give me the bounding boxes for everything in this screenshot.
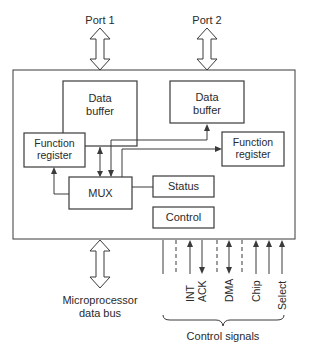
status-block: Status [153, 176, 214, 197]
svg-text:Data: Data [88, 92, 112, 104]
chip-label: Chip [250, 280, 262, 302]
svg-text:Control: Control [166, 211, 201, 223]
port2-label: Port 2 [192, 14, 221, 26]
port2-bidirectional-arrow-icon [197, 28, 217, 70]
function-register-left: Function register [24, 133, 85, 167]
chip-up-arrow-icon [253, 240, 259, 247]
svg-text:register: register [37, 149, 73, 161]
function-register-right: Function register [222, 132, 284, 166]
dma-down-arrow-icon [226, 267, 232, 274]
peripheral-interface-diagram: Port 1 Port 2 Data buffer Data buffer Fu… [0, 0, 311, 344]
svg-text:Function: Function [34, 137, 74, 149]
data-bus-label-line2: data bus [79, 307, 122, 319]
data-buffer-right: Data buffer [170, 81, 244, 123]
svg-text:Function: Function [233, 136, 273, 148]
ack-down-arrow-icon [199, 267, 205, 274]
svg-text:Data: Data [195, 91, 219, 103]
int-up-arrow-icon [187, 240, 193, 247]
svg-text:buffer: buffer [86, 105, 114, 117]
int-label: INT [184, 285, 196, 303]
select-up-arrow-icon-2 [279, 240, 285, 247]
select-up-arrow-icon-1 [266, 240, 272, 247]
svg-text:buffer: buffer [193, 104, 221, 116]
control-signal-lines [163, 240, 282, 274]
mux-block: MUX [69, 177, 132, 209]
port1-bidirectional-arrow-icon [90, 28, 110, 70]
select-label: Select [276, 281, 288, 310]
dma-label: DMA [223, 279, 235, 302]
control-signals-brace [163, 315, 284, 326]
svg-text:Status: Status [168, 180, 200, 192]
control-signals-label: Control signals [187, 330, 260, 342]
data-bus-bidirectional-arrow-icon [90, 240, 110, 288]
control-block: Control [153, 207, 214, 228]
ack-label: ACK [196, 280, 208, 302]
svg-text:register: register [235, 148, 271, 160]
dma-up-arrow-icon [226, 240, 232, 247]
port1-label: Port 1 [85, 14, 114, 26]
svg-text:MUX: MUX [88, 187, 113, 199]
data-bus-label-line1: Microprocessor [62, 294, 138, 306]
